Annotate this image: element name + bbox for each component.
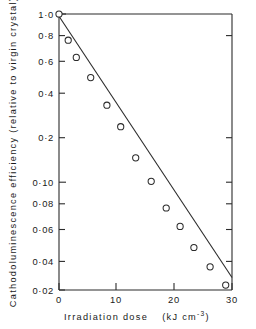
y-tick-label: 0·6 (38, 56, 54, 67)
data-point (56, 11, 62, 17)
x-tick-label: 30 (226, 294, 238, 305)
y-tick-label: 0·2 (38, 132, 54, 143)
y-tick-labels: 1·0 0·8 0·6 0·4 0·2 0·10 0·08 0·06 0·04 … (32, 9, 54, 296)
data-point (223, 282, 229, 288)
x-tick-label: 10 (110, 294, 122, 305)
x-tick-marks (59, 283, 232, 290)
chart-figure: 1·0 0·8 0·6 0·4 0·2 0·10 0·08 0·06 0·04 … (0, 0, 256, 329)
chart-svg: 1·0 0·8 0·6 0·4 0·2 0·10 0·08 0·06 0·04 … (0, 0, 256, 329)
x-tick-label: 0 (56, 294, 62, 305)
y-axis-title: Cathodoluminescence efficiency (relative… (8, 0, 18, 307)
y-tick-label: 0·04 (32, 256, 54, 267)
data-point-markers (56, 11, 229, 288)
data-point (207, 264, 213, 270)
x-tick-labels: 0 10 20 30 (56, 294, 238, 305)
data-point (118, 124, 124, 130)
y-tick-label: 0·02 (32, 285, 54, 296)
data-point (177, 223, 183, 229)
y-tick-marks-right (226, 36, 232, 262)
x-axis-title: Irradiation dose (kJ cm-3) (64, 310, 210, 322)
y-tick-label: 1·0 (38, 9, 54, 20)
fit-line (59, 16, 232, 277)
y-tick-label: 0·08 (32, 198, 54, 209)
y-tick-marks (59, 14, 66, 290)
data-point (104, 102, 110, 108)
data-point (148, 178, 154, 184)
data-point (73, 54, 79, 60)
y-tick-label: 0·10 (32, 177, 54, 188)
y-tick-label: 0·06 (32, 224, 54, 235)
data-point (133, 155, 139, 161)
y-tick-label: 0·4 (38, 88, 54, 99)
data-point (88, 75, 94, 81)
x-axis-unit-exponent: -3 (197, 310, 205, 317)
data-point (65, 37, 71, 43)
x-axis-unit-prefix: (kJ cm (162, 312, 197, 322)
x-axis-title-unit: (kJ cm-3) (162, 310, 210, 322)
x-axis-title-main: Irradiation dose (64, 312, 148, 322)
x-axis-unit-suffix: ) (205, 312, 209, 322)
data-point (163, 205, 169, 211)
data-point (191, 244, 197, 250)
y-tick-label: 0·8 (38, 30, 54, 41)
x-tick-label: 20 (168, 294, 180, 305)
